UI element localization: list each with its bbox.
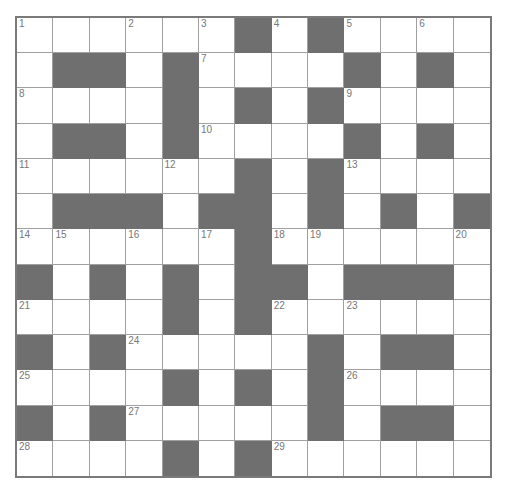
answer-cell[interactable]: 9: [344, 88, 380, 123]
answer-cell[interactable]: [381, 229, 417, 264]
answer-cell[interactable]: [126, 441, 162, 476]
answer-cell[interactable]: 10: [199, 124, 235, 159]
answer-cell[interactable]: 11: [17, 159, 53, 194]
answer-cell[interactable]: [417, 229, 453, 264]
answer-cell[interactable]: [381, 159, 417, 194]
answer-cell[interactable]: 16: [126, 229, 162, 264]
answer-cell[interactable]: [163, 194, 199, 229]
answer-cell[interactable]: 23: [344, 300, 380, 335]
answer-cell[interactable]: [344, 335, 380, 370]
answer-cell[interactable]: 26: [344, 370, 380, 405]
answer-cell[interactable]: 1: [17, 18, 53, 53]
answer-cell[interactable]: [454, 300, 490, 335]
answer-cell[interactable]: [454, 18, 490, 53]
answer-cell[interactable]: 4: [272, 18, 308, 53]
answer-cell[interactable]: [272, 406, 308, 441]
answer-cell[interactable]: 19: [308, 229, 344, 264]
answer-cell[interactable]: 25: [17, 370, 53, 405]
answer-cell[interactable]: [272, 53, 308, 88]
answer-cell[interactable]: [235, 53, 271, 88]
answer-cell[interactable]: [454, 265, 490, 300]
answer-cell[interactable]: [199, 335, 235, 370]
answer-cell[interactable]: [163, 229, 199, 264]
answer-cell[interactable]: [53, 441, 89, 476]
answer-cell[interactable]: [90, 441, 126, 476]
answer-cell[interactable]: [90, 88, 126, 123]
answer-cell[interactable]: [417, 441, 453, 476]
answer-cell[interactable]: 15: [53, 229, 89, 264]
answer-cell[interactable]: [199, 88, 235, 123]
answer-cell[interactable]: [199, 265, 235, 300]
answer-cell[interactable]: [417, 370, 453, 405]
answer-cell[interactable]: [126, 53, 162, 88]
answer-cell[interactable]: [163, 18, 199, 53]
answer-cell[interactable]: 13: [344, 159, 380, 194]
answer-cell[interactable]: [53, 406, 89, 441]
answer-cell[interactable]: [53, 18, 89, 53]
answer-cell[interactable]: [381, 88, 417, 123]
answer-cell[interactable]: [308, 265, 344, 300]
answer-cell[interactable]: [17, 53, 53, 88]
answer-cell[interactable]: 27: [126, 406, 162, 441]
answer-cell[interactable]: [417, 88, 453, 123]
answer-cell[interactable]: [163, 335, 199, 370]
answer-cell[interactable]: 20: [454, 229, 490, 264]
answer-cell[interactable]: [199, 406, 235, 441]
answer-cell[interactable]: [381, 53, 417, 88]
answer-cell[interactable]: [272, 335, 308, 370]
answer-cell[interactable]: [53, 370, 89, 405]
answer-cell[interactable]: [163, 406, 199, 441]
answer-cell[interactable]: 12: [163, 159, 199, 194]
answer-cell[interactable]: [90, 159, 126, 194]
answer-cell[interactable]: [417, 300, 453, 335]
answer-cell[interactable]: 18: [272, 229, 308, 264]
answer-cell[interactable]: [199, 370, 235, 405]
answer-cell[interactable]: [344, 229, 380, 264]
answer-cell[interactable]: [235, 406, 271, 441]
answer-cell[interactable]: [454, 406, 490, 441]
answer-cell[interactable]: [381, 300, 417, 335]
answer-cell[interactable]: [381, 18, 417, 53]
answer-cell[interactable]: 6: [417, 18, 453, 53]
answer-cell[interactable]: [53, 159, 89, 194]
answer-cell[interactable]: [90, 18, 126, 53]
answer-cell[interactable]: 7: [199, 53, 235, 88]
answer-cell[interactable]: [90, 300, 126, 335]
answer-cell[interactable]: [126, 124, 162, 159]
answer-cell[interactable]: [235, 124, 271, 159]
answer-cell[interactable]: [344, 406, 380, 441]
answer-cell[interactable]: 24: [126, 335, 162, 370]
answer-cell[interactable]: [272, 194, 308, 229]
answer-cell[interactable]: [381, 441, 417, 476]
answer-cell[interactable]: 2: [126, 18, 162, 53]
answer-cell[interactable]: [454, 441, 490, 476]
answer-cell[interactable]: [308, 441, 344, 476]
answer-cell[interactable]: [454, 88, 490, 123]
answer-cell[interactable]: [199, 300, 235, 335]
answer-cell[interactable]: [235, 335, 271, 370]
answer-cell[interactable]: 3: [199, 18, 235, 53]
answer-cell[interactable]: [53, 88, 89, 123]
answer-cell[interactable]: [308, 300, 344, 335]
answer-cell[interactable]: [417, 159, 453, 194]
answer-cell[interactable]: [272, 370, 308, 405]
answer-cell[interactable]: 8: [17, 88, 53, 123]
answer-cell[interactable]: [454, 370, 490, 405]
answer-cell[interactable]: [344, 441, 380, 476]
answer-cell[interactable]: [90, 229, 126, 264]
answer-cell[interactable]: [17, 124, 53, 159]
answer-cell[interactable]: [53, 335, 89, 370]
answer-cell[interactable]: [272, 124, 308, 159]
answer-cell[interactable]: [199, 441, 235, 476]
answer-cell[interactable]: [272, 88, 308, 123]
answer-cell[interactable]: [417, 194, 453, 229]
answer-cell[interactable]: [126, 88, 162, 123]
answer-cell[interactable]: [454, 53, 490, 88]
answer-cell[interactable]: [126, 159, 162, 194]
answer-cell[interactable]: [199, 159, 235, 194]
answer-cell[interactable]: [308, 53, 344, 88]
answer-cell[interactable]: 28: [17, 441, 53, 476]
answer-cell[interactable]: [308, 124, 344, 159]
answer-cell[interactable]: 14: [17, 229, 53, 264]
answer-cell[interactable]: 5: [344, 18, 380, 53]
